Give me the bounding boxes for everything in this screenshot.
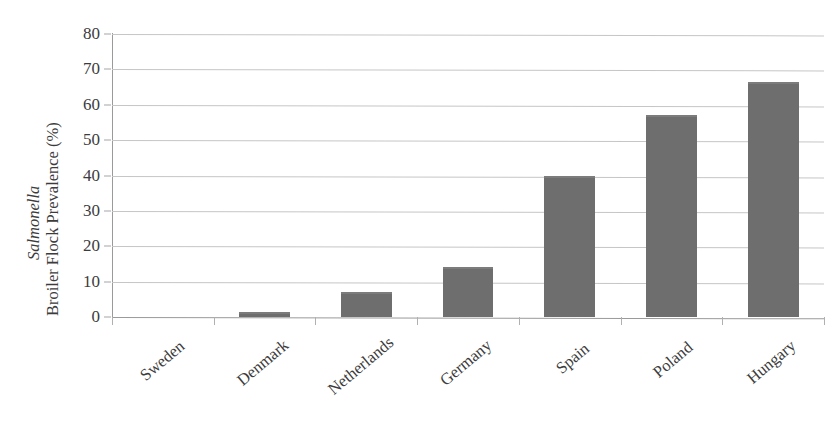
plot-area [112, 34, 824, 317]
x-axis-tick-label: Sweden [136, 336, 189, 385]
y-axis-tick-mark [104, 104, 111, 105]
x-axis-tick-mark [621, 317, 622, 325]
x-axis-tick-marks [0, 317, 836, 326]
x-axis-tick-label: Hungary [743, 336, 800, 388]
bar [646, 115, 697, 317]
x-axis-tick-mark [824, 317, 825, 325]
x-axis-tick-label: Netherlands [324, 332, 398, 399]
y-axis-title: Salmonella Broiler Flock Prevalence (%) [2, 28, 48, 320]
cropped-caption-strip [0, 0, 836, 10]
x-axis-tick-label: Denmark [233, 335, 293, 390]
y-axis-tick-mark [104, 140, 111, 141]
x-axis-tick-label: Germany [436, 335, 496, 390]
y-axis-tick-label: 80 [83, 24, 100, 44]
bar-chart-figure: Salmonella Broiler Flock Prevalence (%) … [0, 0, 836, 444]
y-axis-title-line-1: Salmonella [24, 186, 44, 260]
bar [341, 292, 392, 317]
x-axis-tick-mark [722, 317, 723, 325]
y-axis-tick-mark [104, 281, 111, 282]
y-axis-tick-label: 20 [83, 236, 100, 256]
y-axis-tick-mark [104, 246, 111, 247]
x-axis-tick-mark [214, 317, 215, 325]
x-axis-tick-mark [417, 317, 418, 325]
y-axis-tick-label: 70 [83, 59, 100, 79]
x-axis-tick-mark [315, 317, 316, 325]
y-axis-tick-label: 40 [83, 166, 100, 186]
bar [544, 176, 595, 318]
y-axis-tick-label: 60 [83, 95, 100, 115]
y-axis-tick-label: 30 [83, 201, 100, 221]
x-axis-tick-label: Spain [552, 339, 594, 378]
x-axis-tick-mark [519, 317, 520, 325]
y-axis-tick-mark [104, 210, 111, 211]
y-axis-tick-mark [104, 175, 111, 176]
bar [748, 82, 799, 317]
x-axis-tick-mark [112, 317, 113, 325]
bar-series [112, 34, 824, 317]
y-axis-tick-mark [104, 69, 111, 70]
x-axis-tick-label: Poland [649, 337, 697, 382]
y-axis-tick-label: 50 [83, 130, 100, 150]
x-axis-tick-labels: SwedenDenmarkNetherlandsGermanySpainPola… [0, 326, 836, 444]
y-axis-tick-mark [104, 34, 111, 35]
y-axis-tick-label: 10 [83, 272, 100, 292]
bar [443, 267, 494, 317]
